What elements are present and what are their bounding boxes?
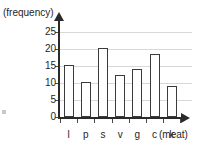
x-axis-line	[58, 117, 182, 119]
bar	[167, 86, 177, 117]
bar	[115, 75, 125, 117]
y-axis-arrow-icon	[54, 12, 64, 21]
y-axis-tick-label: 20	[40, 44, 56, 54]
x-axis-tick-mark	[129, 119, 130, 123]
x-axis-tick-label: p	[78, 129, 94, 140]
y-axis-tick-label: 25	[40, 27, 56, 37]
bar	[150, 54, 160, 117]
bar-chart: (frequency) (meat) 0510152025 lpsvgck	[0, 0, 205, 151]
x-axis-tick-label: g	[129, 129, 145, 140]
y-axis-tick-label: 5	[40, 95, 56, 105]
x-axis-tick-label: c	[147, 129, 163, 140]
bar	[81, 82, 91, 117]
x-axis-tick-mark	[94, 119, 95, 123]
x-axis-tick-mark	[163, 119, 164, 123]
x-axis-tick-label: s	[95, 129, 111, 140]
y-axis-tick-label: 10	[40, 78, 56, 88]
x-axis-tick-mark	[112, 119, 113, 123]
bar	[132, 69, 142, 117]
y-axis-line	[58, 20, 60, 118]
gridline	[59, 32, 192, 33]
y-axis-tick-label: 15	[40, 61, 56, 71]
x-axis-tick-label: v	[112, 129, 128, 140]
bar	[64, 65, 74, 117]
gridline	[59, 49, 192, 50]
x-axis-tick-label: l	[61, 129, 77, 140]
x-axis-tick-label: k	[164, 129, 180, 140]
gridline	[59, 83, 192, 84]
bar	[98, 48, 108, 117]
y-axis-tick-label: 0	[40, 112, 56, 122]
x-axis-tick-mark	[146, 119, 147, 123]
x-axis-tick-mark	[77, 119, 78, 123]
x-axis-arrow-icon	[181, 113, 190, 123]
gridline	[59, 66, 192, 67]
stray-artifact-mark	[2, 110, 6, 114]
x-axis-tick-mark	[60, 119, 61, 123]
y-axis-tick-labels: 0510152025	[38, 0, 56, 151]
